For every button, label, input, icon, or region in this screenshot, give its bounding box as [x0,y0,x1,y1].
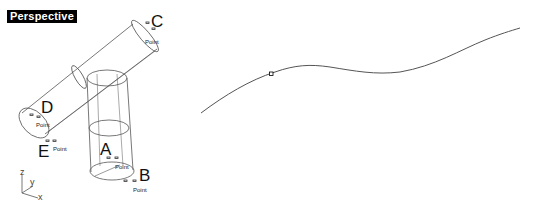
vertical-cylinder-mid [89,120,129,136]
spline-curve[interactable] [201,28,520,113]
vertical-edge-right [127,78,133,170]
point-sub-b: Point [133,187,147,193]
point-marker-b [124,180,127,182]
wireframe-scene: C Point D Point E Point A Point B Point … [0,0,195,208]
point-label-d: D [41,98,53,117]
point-label-c: C [151,12,163,31]
curve-canvas[interactable] [195,0,533,208]
point-sub-a: Point [115,164,129,170]
viewport-title[interactable]: Perspective [7,10,77,23]
control-point-marker[interactable] [270,72,274,76]
cylinder-edge-inner [48,51,155,132]
vertical-edge-inner-2 [117,74,123,166]
point-marker-b2 [133,180,136,182]
point-marker-d [30,114,33,116]
axis-label-x: x [38,192,43,202]
point-marker-e2 [53,140,56,142]
point-sub-e: Point [53,146,67,152]
point-marker-c [146,22,149,24]
curve-drawing [195,0,533,208]
point-sub-d: Point [36,122,50,128]
perspective-viewport[interactable]: C Point D Point E Point A Point B Point … [0,0,195,208]
point-sub-c: Point [145,39,159,45]
axis-label-z: z [20,167,25,177]
point-label-a: A [100,140,112,159]
axis-label-y: y [30,177,35,187]
point-label-e: E [38,142,49,161]
point-marker-a2 [115,157,118,159]
y-axis-line [22,186,33,193]
vertical-cylinder-top [87,70,127,86]
point-label-b: B [139,166,150,185]
point-marker-d2 [37,116,40,118]
x-axis-line [22,193,38,198]
